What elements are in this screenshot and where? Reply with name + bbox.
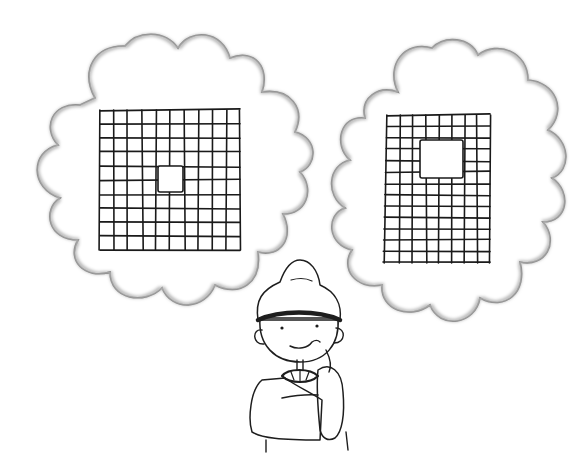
left-thought-cloud (37, 34, 313, 305)
grid-column-line (399, 115, 400, 263)
illustration-svg (0, 0, 578, 463)
character-legs (266, 432, 348, 452)
grid-column-line (184, 110, 185, 250)
character-left-eye (280, 326, 283, 329)
character-smile (290, 341, 320, 349)
grid-column-line (226, 110, 227, 250)
grid-column-line (239, 110, 240, 250)
grid-column-line (464, 115, 465, 263)
character-arm-folded (282, 395, 318, 398)
grid-column-line (412, 115, 413, 263)
grid-column-line (477, 115, 478, 263)
child-character (250, 260, 348, 452)
character-face (260, 318, 338, 362)
right-thought-cloud (332, 40, 566, 322)
right-cloud-outline (332, 40, 566, 322)
grid-column-line (438, 115, 439, 263)
right-grid-missing-block (420, 140, 463, 178)
illustration-canvas: Hand-drawn line illustration of a child … (0, 0, 578, 463)
left-grid-missing-cell (158, 166, 183, 192)
character-right-eye (315, 324, 318, 327)
grid-column-line (489, 115, 490, 263)
grid-column-line (198, 110, 199, 250)
character-hat-band (258, 313, 340, 321)
grid-column-line (426, 115, 427, 263)
character-hat-fold (291, 279, 312, 281)
grid-column-line (155, 110, 156, 250)
grid-column-line (99, 110, 100, 250)
character-body (250, 378, 322, 440)
